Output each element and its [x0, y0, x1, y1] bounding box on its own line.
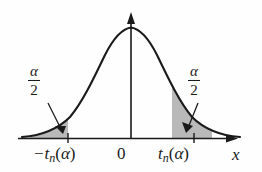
left-alpha-numerator: α [28, 64, 40, 80]
negative-sign: − [33, 144, 44, 163]
right-fraction-bar [188, 80, 200, 81]
right-rejection-region-shading [131, 28, 242, 138]
critical-alpha-argument: α [61, 144, 70, 163]
left-fraction-bar [28, 80, 40, 81]
positive-critical-value-label: tn(α) [158, 145, 189, 164]
right-tail-area-label: α 2 [188, 64, 200, 98]
left-alpha-fraction: α 2 [28, 64, 40, 98]
right-alpha-numerator: α [188, 64, 200, 80]
critical-alpha-argument: α [174, 144, 183, 163]
left-tail-area-label: α 2 [28, 64, 40, 98]
right-alpha-fraction: α 2 [188, 64, 200, 98]
negative-critical-value-label: −tn(α) [33, 145, 76, 164]
y-axis-arrowhead [127, 12, 135, 24]
left-alpha-denominator: 2 [28, 82, 40, 98]
x-axis-label: x [232, 146, 240, 163]
origin-label: 0 [117, 145, 126, 162]
t-distribution-figure: α 2 α 2 −tn(α) 0 tn(α) x [0, 0, 262, 172]
critical-close-paren: ) [70, 144, 76, 163]
right-alpha-denominator: 2 [188, 82, 200, 98]
critical-close-paren: ) [183, 144, 189, 163]
